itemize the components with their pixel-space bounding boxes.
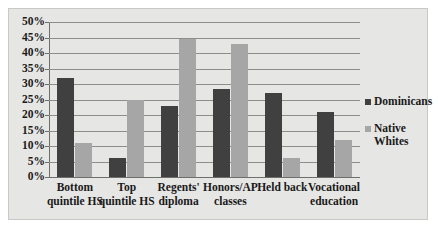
x-axis-tick-label: Vocationaleducation xyxy=(302,181,366,208)
legend-label-line: Whites xyxy=(374,135,409,149)
legend-label-line: Native xyxy=(374,122,409,136)
y-axis-tick xyxy=(45,115,49,116)
chart-legend: DominicansNativeWhites xyxy=(365,95,427,162)
y-axis-tick-label: 15% xyxy=(11,125,45,137)
y-axis-tick xyxy=(45,131,49,132)
y-axis-tick-label: 30% xyxy=(11,78,45,90)
bar-group xyxy=(308,22,360,177)
bar-group xyxy=(153,22,205,177)
y-axis-tick xyxy=(45,69,49,70)
y-axis-tick xyxy=(45,22,49,23)
y-axis-tick xyxy=(45,100,49,101)
y-axis-tick xyxy=(45,162,49,163)
bar-native-whites xyxy=(283,158,300,177)
y-axis-tick-label: 20% xyxy=(11,109,45,121)
bar-group xyxy=(49,22,101,177)
plot-area xyxy=(49,22,360,177)
legend-label: Dominicans xyxy=(374,95,432,109)
legend-item[interactable]: NativeWhites xyxy=(365,122,427,149)
y-axis-tick xyxy=(45,53,49,54)
bar-dominicans xyxy=(213,89,230,177)
y-axis-tick-label: 40% xyxy=(11,47,45,59)
y-axis-tick xyxy=(45,177,49,178)
gridline xyxy=(49,177,360,178)
bar-native-whites xyxy=(231,44,248,177)
bar-native-whites xyxy=(75,143,92,177)
legend-label: NativeWhites xyxy=(374,122,409,149)
y-axis-tick-label: 5% xyxy=(11,156,45,168)
x-axis-label-line: education xyxy=(302,195,366,209)
y-axis-tick-label: 10% xyxy=(11,140,45,152)
x-axis-label-line: classes xyxy=(199,195,263,209)
bar-group xyxy=(205,22,257,177)
y-axis-tick xyxy=(45,84,49,85)
legend-swatch-icon xyxy=(365,99,371,105)
y-axis-tick-label: 35% xyxy=(11,63,45,75)
y-axis-tick-label: 45% xyxy=(11,32,45,44)
y-axis-tick-label: 50% xyxy=(11,16,45,28)
bar-group xyxy=(256,22,308,177)
bar-group xyxy=(101,22,153,177)
y-axis-tick-label: 25% xyxy=(11,94,45,106)
x-axis-labels: Bottomquintile HSTopquintile HSRegents'd… xyxy=(49,181,360,221)
bar-dominicans xyxy=(265,93,282,177)
y-axis-tick xyxy=(45,38,49,39)
bar-dominicans xyxy=(161,106,178,177)
bar-dominicans xyxy=(57,78,74,177)
bar-native-whites xyxy=(335,140,352,177)
bar-native-whites xyxy=(179,39,196,177)
bar-dominicans xyxy=(109,158,126,177)
legend-swatch-icon xyxy=(365,126,371,132)
legend-label-line: Dominicans xyxy=(374,95,432,109)
bar-native-whites xyxy=(127,100,144,178)
bar-dominicans xyxy=(317,112,334,177)
y-axis-tick xyxy=(45,146,49,147)
x-axis-label-line: Vocational xyxy=(302,181,366,195)
y-axis-labels: 50%45%40%35%30%25%20%15%10%5%0% xyxy=(9,9,45,221)
y-axis-tick-label: 0% xyxy=(11,171,45,183)
legend-item[interactable]: Dominicans xyxy=(365,95,427,109)
chart-container: 50%45%40%35%30%25%20%15%10%5%0% Bottomqu… xyxy=(8,8,428,220)
